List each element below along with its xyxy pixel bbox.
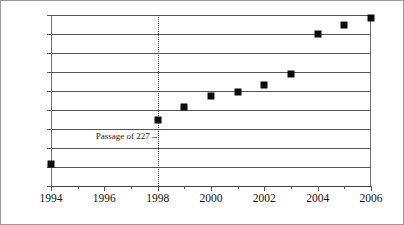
chart-figure: 25456585105125145165185205 1994199619982… — [0, 0, 404, 225]
x-tick-mark-1996 — [104, 186, 105, 191]
plot-frame — [51, 15, 371, 186]
y-tick-mark-205 — [47, 15, 51, 16]
x-tick-mark-minor-2005 — [344, 186, 345, 189]
x-tick-label-2002: 2002 — [253, 193, 276, 205]
x-tick-mark-minor-1995 — [78, 186, 79, 189]
x-tick-mark-1994 — [51, 186, 52, 191]
y-tick-mark-165 — [47, 53, 51, 54]
data-point-2000 — [208, 92, 215, 99]
y-tick-mark-85 — [47, 129, 51, 130]
x-tick-mark-minor-2003 — [291, 186, 292, 189]
x-tick-mark-2000 — [211, 186, 212, 191]
x-tick-mark-2006 — [371, 186, 372, 191]
gridline-165 — [51, 53, 371, 54]
y-tick-mark-145 — [47, 72, 51, 73]
x-tick-mark-1998 — [158, 186, 159, 191]
x-tick-label-1994: 1994 — [40, 193, 63, 205]
data-point-2005 — [341, 21, 348, 28]
data-point-1998 — [154, 116, 161, 123]
x-tick-mark-minor-2001 — [238, 186, 239, 189]
x-tick-mark-2004 — [318, 186, 319, 191]
gridline-185 — [51, 34, 371, 35]
x-tick-mark-2002 — [264, 186, 265, 191]
data-point-2003 — [288, 70, 295, 77]
gridline-65 — [51, 148, 371, 149]
gridline-105 — [51, 110, 371, 111]
y-tick-mark-65 — [47, 148, 51, 149]
data-point-2006 — [368, 14, 375, 21]
x-tick-label-2006: 2006 — [360, 193, 383, 205]
x-tick-label-2004: 2004 — [306, 193, 329, 205]
x-tick-label-1996: 1996 — [93, 193, 116, 205]
y-tick-mark-125 — [47, 91, 51, 92]
x-tick-label-1998: 1998 — [146, 193, 169, 205]
data-point-2004 — [314, 31, 321, 38]
y-tick-mark-105 — [47, 110, 51, 111]
data-point-2001 — [234, 88, 241, 95]
passage-of-227-line — [158, 15, 159, 186]
gridline-45 — [51, 167, 371, 168]
x-tick-label-2000: 2000 — [200, 193, 223, 205]
passage-of-227-label: Passage of 227→ — [96, 131, 160, 140]
y-tick-mark-185 — [47, 34, 51, 35]
data-point-1999 — [181, 104, 188, 111]
gridline-145 — [51, 72, 371, 73]
x-tick-mark-minor-1997 — [131, 186, 132, 189]
x-tick-mark-minor-1999 — [184, 186, 185, 189]
gridline-205 — [51, 15, 371, 16]
data-point-2002 — [261, 82, 268, 89]
plot-area: 25456585105125145165185205 1994199619982… — [51, 15, 371, 186]
data-point-1994 — [48, 161, 55, 168]
